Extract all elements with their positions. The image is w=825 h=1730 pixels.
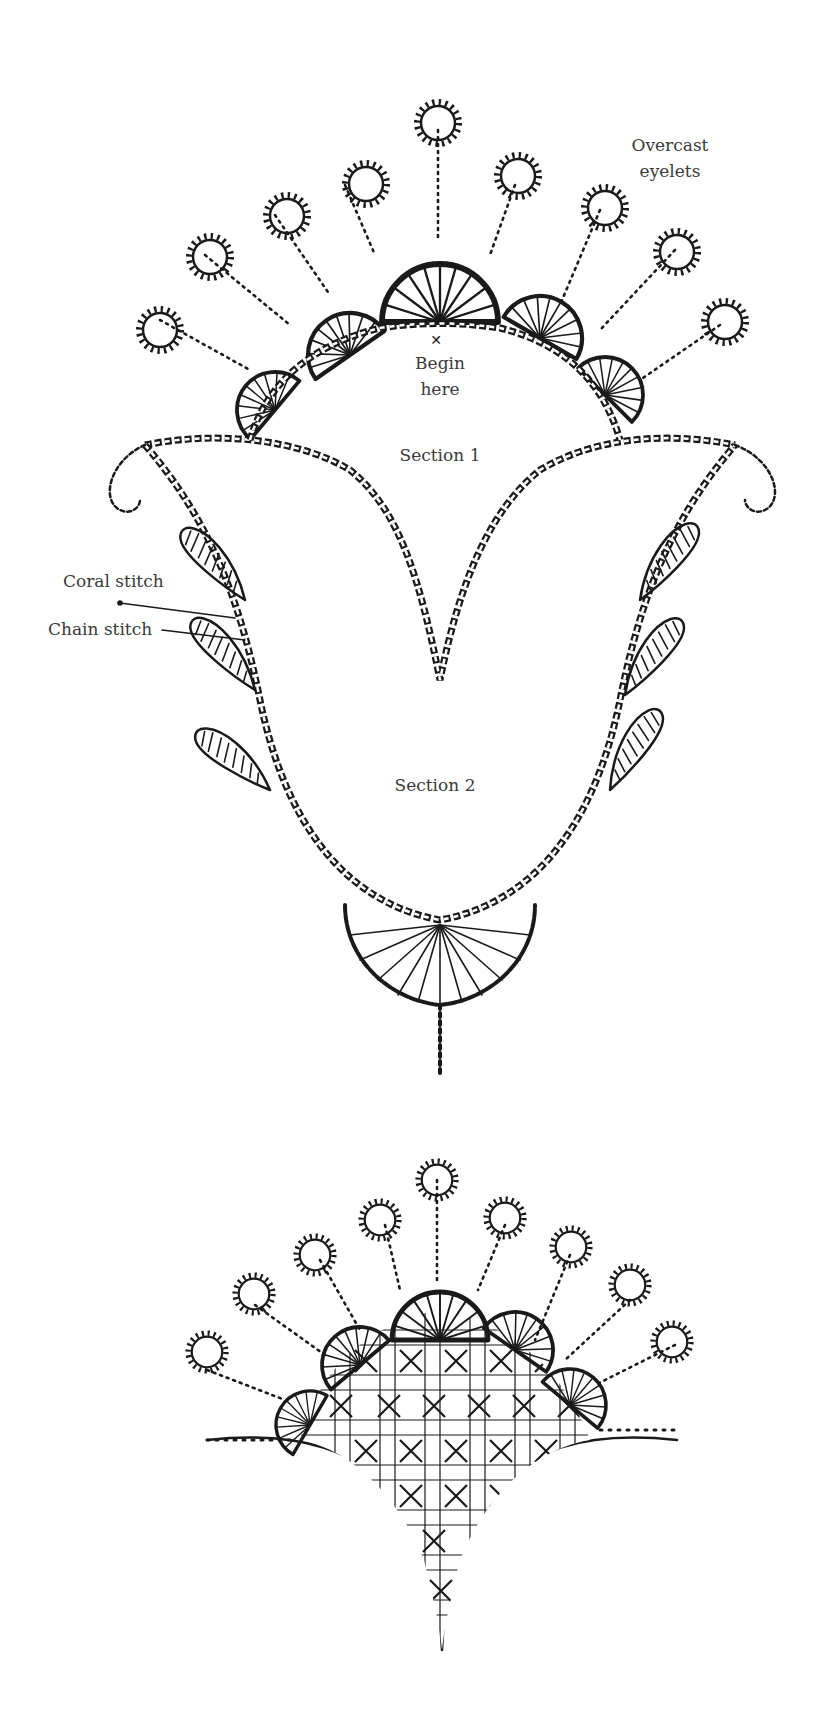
leaves-right xyxy=(593,522,709,790)
bottom-fan xyxy=(345,905,535,1075)
section-2-label: Section 2 xyxy=(380,772,490,798)
coral-stitch-label: Coral stitch xyxy=(63,568,173,594)
begin-here-label: Begin here xyxy=(400,350,480,402)
begin-here-line1: Begin xyxy=(400,350,480,376)
overcast-eyelets-label: Overcast eyelets xyxy=(620,132,720,184)
lower-fan-motif xyxy=(188,1161,691,1660)
section-1-label: Section 1 xyxy=(385,442,495,468)
stitch-diagram: ✕ xyxy=(0,0,825,1730)
upper-tulip-motif: ✕ xyxy=(110,102,775,1075)
leaves-left xyxy=(175,527,270,796)
svg-text:✕: ✕ xyxy=(430,332,442,348)
overcast-eyelets-line2: eyelets xyxy=(620,158,720,184)
begin-here-line2: here xyxy=(400,376,480,402)
overcast-eyelets-line1: Overcast xyxy=(620,132,720,158)
chain-stitch-label: Chain stitch xyxy=(48,616,163,642)
section-2-outline xyxy=(145,445,735,920)
